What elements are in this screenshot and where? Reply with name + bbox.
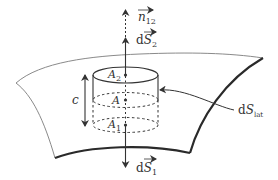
label-ds1: dS1 <box>136 159 157 177</box>
gauss-cylinder <box>93 67 158 133</box>
surface-bottom-edge <box>55 147 190 158</box>
point-a <box>124 98 127 101</box>
label-a: A <box>111 94 120 107</box>
label-height-c: c <box>72 93 79 107</box>
svg-text:dS1: dS1 <box>136 161 157 177</box>
label-ds2: dS2 <box>136 32 157 49</box>
svg-text:dSlat: dSlat <box>238 103 263 119</box>
label-a1: A1 <box>107 118 121 133</box>
svg-text:n12: n12 <box>138 10 156 26</box>
surface-left-edge <box>16 83 55 158</box>
diagram-canvas: n12 dS2 dS1 dSlat A2 A A1 c <box>0 0 278 180</box>
svg-text:dS2: dS2 <box>136 33 157 49</box>
label-dslat: dSlat <box>238 103 263 119</box>
label-n12: n12 <box>138 10 156 26</box>
